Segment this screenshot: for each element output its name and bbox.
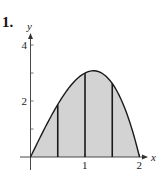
y-tick-label: 4 <box>22 39 28 51</box>
x-axis-label: x <box>150 151 156 163</box>
area-chart: 24 12 x y <box>0 0 167 181</box>
y-axis-label: y <box>26 20 32 32</box>
y-axis-arrow-icon <box>28 33 33 39</box>
y-tick-label: 2 <box>22 95 28 107</box>
x-axis-arrow-icon <box>142 155 148 160</box>
x-tick-label: 1 <box>82 159 88 171</box>
y-ticks: 24 <box>22 39 34 129</box>
x-tick-label: 2 <box>137 159 143 171</box>
